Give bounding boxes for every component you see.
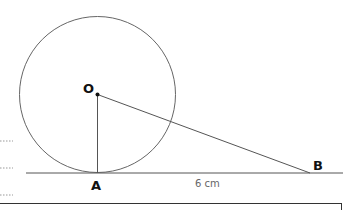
answer-box [0,203,342,210]
center-point-O [96,93,100,97]
label-B: B [313,158,323,173]
label-AB-length: 6 cm [195,178,220,189]
label-O: O [83,81,94,96]
line-OB [98,95,311,174]
label-A: A [91,178,101,193]
geometry-diagram: O A B 6 cm [0,0,345,210]
answer-dotted-lines [0,141,13,195]
